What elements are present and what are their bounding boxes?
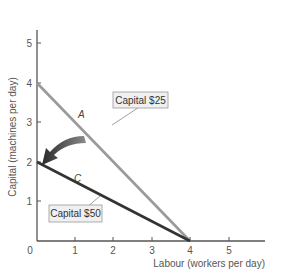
x-tick-2: 2 xyxy=(110,245,116,256)
point-a-label: A xyxy=(77,109,85,120)
point-c-label: C xyxy=(74,173,82,184)
y-axis-label: Capital (machines per day) xyxy=(7,77,18,197)
callout-capital-50-text: Capital $50 xyxy=(50,208,101,219)
y-tick-2: 2 xyxy=(26,157,32,168)
callout-capital-25: Capital $25 xyxy=(113,92,168,108)
shift-arrow-icon xyxy=(42,136,86,165)
callout-capital-25-text: Capital $25 xyxy=(115,95,166,106)
x-tick-3: 3 xyxy=(149,245,155,256)
y-tick-4: 4 xyxy=(26,78,32,89)
y-tick-3: 3 xyxy=(26,117,32,128)
isocost-line-capital-50 xyxy=(37,162,190,241)
x-axis-label: Labour (workers per day) xyxy=(153,258,265,269)
y-tick-5: 5 xyxy=(26,38,32,49)
x-tick-4: 4 xyxy=(187,245,193,256)
x-tick-1: 1 xyxy=(72,245,78,256)
y-tick-labels: 1 2 3 4 5 xyxy=(26,38,32,207)
x-tick-5: 5 xyxy=(226,245,232,256)
isocost-chart: 1 2 3 4 5 0 1 2 3 4 5 Labour (workers pe… xyxy=(0,0,281,278)
callout-capital-50: Capital $50 xyxy=(49,205,102,222)
x-tick-labels: 0 1 2 3 4 5 xyxy=(27,245,232,256)
origin-label: 0 xyxy=(27,245,33,256)
y-tick-1: 1 xyxy=(26,196,32,207)
